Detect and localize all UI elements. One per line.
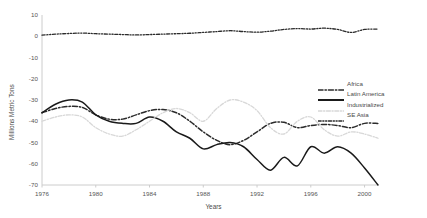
legend-label: Industrialized: [347, 101, 383, 109]
y-tick-label: 10: [8, 11, 38, 18]
y-tick-label: -20: [8, 75, 38, 82]
legend-item-industrialized[interactable]: Industrialized: [318, 101, 385, 109]
x-axis-title: Years: [0, 203, 427, 210]
x-tick-label: 1984: [130, 190, 170, 197]
legend-label: SE Asia: [347, 111, 369, 119]
x-tick-label: 1980: [76, 190, 116, 197]
x-tick-label: 2000: [345, 190, 385, 197]
legend-item-latin-america[interactable]: Latin America: [318, 90, 385, 98]
legend-item-se-asia[interactable]: SE Asia: [318, 111, 385, 119]
series-line-se-asia: [42, 28, 378, 35]
legend-swatch-icon: [318, 80, 344, 88]
legend-label: Africa: [347, 80, 363, 88]
x-tick-label: 1976: [22, 190, 62, 197]
legend-swatch-icon: [318, 101, 344, 109]
x-tick-label: 1988: [183, 190, 223, 197]
legend-item-africa[interactable]: Africa: [318, 80, 385, 88]
x-tick-label: 1992: [237, 190, 277, 197]
y-axis-title: Millions Metric Tons: [8, 84, 15, 140]
y-tick-label: 0: [8, 32, 38, 39]
y-tick-label: -60: [8, 160, 38, 167]
y-tick-label: -70: [8, 181, 38, 188]
x-tick-label: 1996: [291, 190, 331, 197]
legend-swatch-icon: [318, 90, 344, 98]
legend-label: Latin America: [347, 90, 385, 98]
chart-legend: AfricaLatin AmericaIndustrializedSE Asia: [318, 80, 385, 119]
line-chart: 100-10-20-30-40-50-60-70 197619801984198…: [0, 0, 427, 218]
y-tick-label: -10: [8, 54, 38, 61]
legend-swatch-icon: [318, 111, 344, 119]
